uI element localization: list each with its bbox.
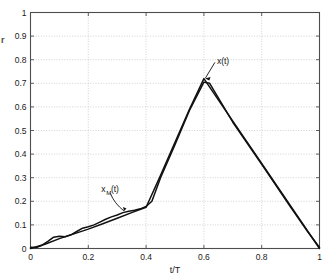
y-tick-label: 0.9 [15, 31, 27, 41]
y-tick-label: 0.1 [15, 220, 27, 230]
line-chart-figure: 00.10.20.30.40.50.60.70.80.9100.20.40.60… [0, 0, 331, 277]
figure-background [0, 0, 331, 277]
y-tick-label: 0.4 [15, 149, 27, 159]
x-tick-label: 0.2 [82, 252, 94, 262]
y-tick-label: 0.3 [15, 173, 27, 183]
annotation-label-xt: x(t) [217, 56, 229, 66]
y-tick-label: 0.7 [15, 78, 27, 88]
x-tick-label: 0.8 [256, 252, 268, 262]
x-tick-label: 0.6 [198, 252, 210, 262]
x-tick-label: 0 [28, 252, 33, 262]
y-tick-label: 0.6 [15, 102, 27, 112]
x-axis-title: t/T [170, 265, 181, 275]
x-tick-label: 1 [317, 252, 322, 262]
annotation-label-xmt-suffix: (t) [111, 184, 119, 194]
chart-screenshot: 00.10.20.30.40.50.60.70.80.9100.20.40.60… [0, 0, 331, 277]
y-tick-label: 0.5 [15, 126, 27, 136]
y-tick-label: 0 [22, 244, 27, 254]
y-tick-label: 0.8 [15, 55, 27, 65]
x-tick-label: 0.4 [140, 252, 152, 262]
clipped-y-axis-label: r [1, 35, 5, 45]
y-tick-label: 0.2 [15, 196, 27, 206]
y-tick-label: 1 [22, 8, 27, 18]
